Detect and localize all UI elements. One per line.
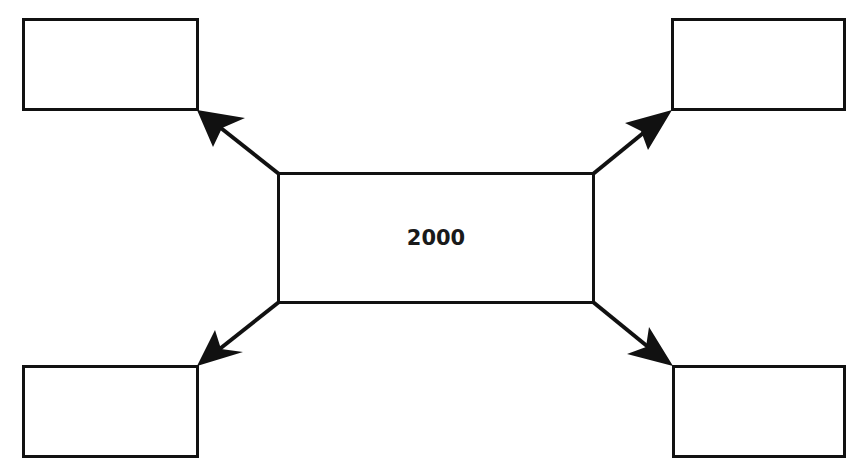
arrow-to-bottom-left — [212, 302, 279, 355]
outer-box-top-right — [671, 18, 846, 111]
outer-box-bottom-left — [22, 365, 199, 458]
arrow-to-top-left — [212, 121, 279, 174]
center-box: 2000 — [277, 172, 595, 304]
center-label: 2000 — [407, 226, 465, 250]
outer-box-top-left — [22, 18, 199, 111]
outer-box-bottom-right — [672, 365, 846, 458]
